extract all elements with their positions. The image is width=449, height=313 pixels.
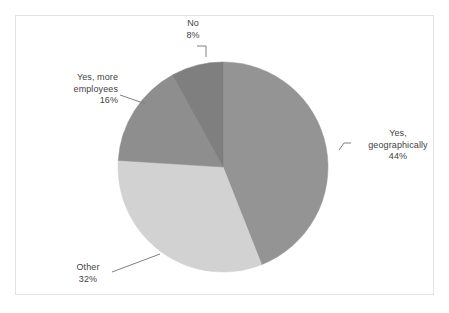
pie-slice-group bbox=[118, 62, 328, 272]
pie-label-yes-more-employees-line1: Yes, more bbox=[77, 72, 118, 82]
pie-label-yes-more-employees-value: 16% bbox=[28, 95, 118, 107]
pie-label-yes-geographically-value: 44% bbox=[352, 151, 444, 163]
pie-chart-figure: No 8% Yes, more employees 16% Yes, geogr… bbox=[0, 0, 449, 313]
leader-line-no bbox=[197, 46, 206, 57]
pie-label-no: No 8% bbox=[158, 18, 228, 41]
pie-label-yes-more-employees: Yes, more employees 16% bbox=[28, 72, 118, 107]
pie-label-yes-geographically: Yes, geographically 44% bbox=[352, 128, 444, 163]
pie-label-yes-geographically-line1: Yes, bbox=[389, 128, 407, 138]
leader-line-yes-geographically bbox=[339, 143, 351, 150]
pie-label-other: Other 32% bbox=[56, 262, 120, 285]
leader-line-yes-more-employees bbox=[120, 95, 146, 104]
pie-label-other-text: Other bbox=[76, 262, 99, 272]
pie-label-no-value: 8% bbox=[158, 30, 228, 42]
pie-label-yes-geographically-line2: geographically bbox=[368, 140, 427, 150]
pie-label-no-text: No bbox=[187, 18, 199, 28]
pie-label-yes-more-employees-line2: employees bbox=[74, 84, 118, 94]
pie-label-other-value: 32% bbox=[56, 274, 120, 286]
